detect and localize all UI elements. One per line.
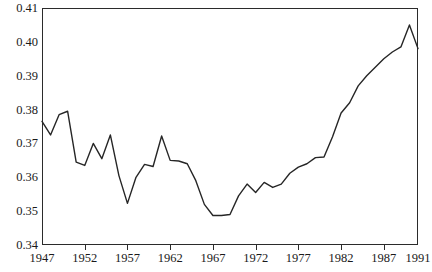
y-tick-label: 0.39 bbox=[16, 70, 38, 83]
x-tick-label: 1987 bbox=[371, 252, 396, 265]
y-tick-label: 0.38 bbox=[16, 104, 38, 117]
x-tick-label: 1952 bbox=[72, 252, 97, 265]
data-line bbox=[42, 25, 418, 216]
x-tick-mark bbox=[256, 245, 257, 250]
x-tick-mark bbox=[170, 245, 171, 250]
x-tick-mark bbox=[127, 245, 128, 250]
x-tick-mark bbox=[341, 245, 342, 250]
y-tick-label: 0.41 bbox=[16, 2, 38, 15]
x-tick-label: 1991 bbox=[406, 252, 431, 265]
x-tick-mark bbox=[384, 245, 385, 250]
x-tick-label: 1972 bbox=[243, 252, 268, 265]
y-tick-label: 0.36 bbox=[16, 171, 38, 184]
x-tick-label: 1962 bbox=[158, 252, 183, 265]
y-tick-label: 0.35 bbox=[16, 205, 38, 218]
y-tick-label: 0.34 bbox=[16, 239, 38, 252]
x-tick-label: 1982 bbox=[329, 252, 354, 265]
x-tick-mark bbox=[213, 245, 214, 250]
y-tick-label: 0.40 bbox=[16, 36, 38, 49]
x-tick-mark bbox=[85, 245, 86, 250]
x-tick-label: 1967 bbox=[200, 252, 225, 265]
y-axis: 0.340.350.360.370.380.390.400.41 bbox=[0, 0, 38, 272]
line-chart: 0.340.350.360.370.380.390.400.41 1947195… bbox=[0, 0, 432, 272]
x-tick-mark bbox=[298, 245, 299, 250]
series-layer bbox=[42, 8, 418, 245]
x-tick-label: 1947 bbox=[30, 252, 55, 265]
y-tick-label: 0.37 bbox=[16, 137, 38, 150]
x-tick-label: 1957 bbox=[115, 252, 140, 265]
x-tick-label: 1977 bbox=[286, 252, 311, 265]
